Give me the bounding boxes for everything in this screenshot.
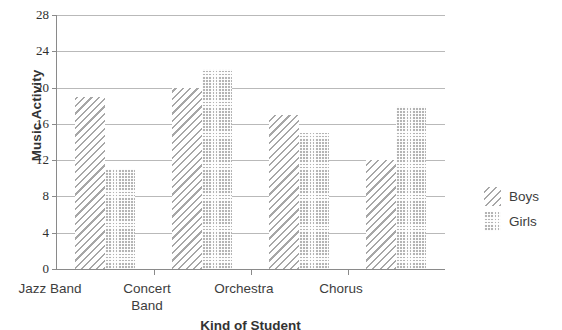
- y-tick-mark-8: [52, 196, 57, 197]
- bar-group-orchestra: [269, 15, 329, 269]
- bar-boys-jazz-band: [75, 97, 105, 269]
- y-tick-label-20: 20: [36, 80, 49, 96]
- y-tick-mark-4: [52, 233, 57, 234]
- legend-label-girls: Girls: [509, 214, 537, 229]
- legend-item-girls: Girls: [484, 209, 539, 234]
- x-tick-label-line: Orchestra: [189, 280, 299, 297]
- y-tick-mark-12: [52, 160, 57, 161]
- y-tick-mark-16: [52, 124, 57, 125]
- legend-swatch-boys-icon: [484, 187, 501, 206]
- x-axis-title: Kind of Student: [56, 318, 445, 330]
- y-tick-label-8: 8: [43, 188, 50, 204]
- x-tick-label-line: Band: [92, 297, 202, 314]
- bar-group-concert-band: [172, 15, 232, 269]
- bar-group-chorus: [366, 15, 426, 269]
- x-tick-label-chorus: Chorus: [286, 280, 396, 297]
- legend-swatch-girls-icon: [484, 212, 501, 231]
- y-tick-mark-28: [52, 15, 57, 16]
- y-tick-label-24: 24: [36, 43, 49, 59]
- y-tick-label-16: 16: [36, 116, 49, 132]
- x-tick-label-line: Jazz Band: [0, 280, 105, 297]
- x-tick-label-line: Concert: [92, 280, 202, 297]
- y-tick-label-12: 12: [36, 152, 49, 168]
- x-tick-mark-3: [348, 269, 349, 275]
- bar-group-jazz-band: [75, 15, 135, 269]
- y-tick-label-0: 0: [43, 261, 50, 277]
- plot-area: 0481216202428Jazz BandConcertBandOrchest…: [56, 15, 445, 270]
- chart-legend: Boys Girls: [484, 184, 539, 234]
- x-tick-label-jazz-band: Jazz Band: [0, 280, 105, 297]
- x-tick-mark-1: [154, 269, 155, 275]
- bar-girls-jazz-band: [105, 169, 135, 269]
- legend-item-boys: Boys: [484, 184, 539, 209]
- x-tick-label-line: Chorus: [286, 280, 396, 297]
- y-tick-mark-0: [52, 269, 57, 270]
- bar-boys-orchestra: [269, 115, 299, 269]
- bar-boys-chorus: [366, 160, 396, 269]
- y-tick-mark-24: [52, 51, 57, 52]
- y-tick-label-28: 28: [36, 7, 49, 23]
- x-tick-label-concert-band: ConcertBand: [92, 280, 202, 314]
- bar-chart-figure: Music Activity 0481216202428Jazz BandCon…: [0, 0, 562, 330]
- bar-girls-orchestra: [299, 133, 329, 269]
- legend-label-boys: Boys: [509, 189, 539, 204]
- bar-girls-chorus: [396, 106, 426, 269]
- bar-boys-concert-band: [172, 88, 202, 269]
- y-tick-label-4: 4: [43, 225, 50, 241]
- bar-girls-concert-band: [202, 69, 232, 269]
- y-tick-mark-20: [52, 88, 57, 89]
- x-tick-label-orchestra: Orchestra: [189, 280, 299, 297]
- x-tick-mark-2: [251, 269, 252, 275]
